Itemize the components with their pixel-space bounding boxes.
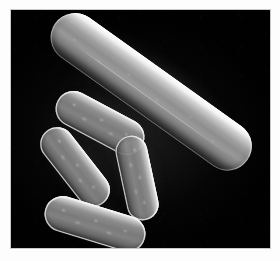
conidium-cell [112,133,161,224]
cell-body [112,133,161,224]
micrograph-figure [0,0,280,261]
micrograph-field [11,10,270,248]
